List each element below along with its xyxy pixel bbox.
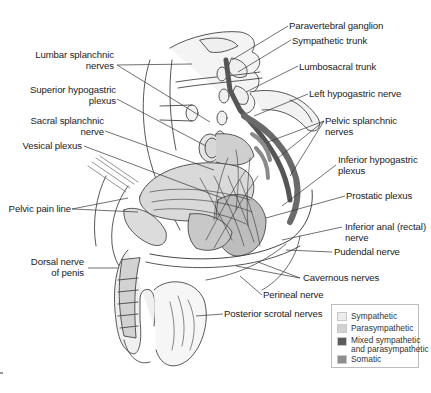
label-line: Superior hypogastric: [24, 85, 116, 96]
label-inferior-anal-rectal-nerve: Inferior anal (rectal) nerve: [345, 222, 426, 243]
label-cavernous-nerves: Cavernous nerves: [303, 273, 379, 284]
legend-label: Sympathetic: [351, 312, 397, 321]
label-lumbar-splanchnic-nerves: Lumbar splanchnic nerves: [34, 50, 114, 71]
label-line: Inferior hypogastric: [338, 155, 418, 166]
label-line: nerves: [34, 61, 114, 72]
swatch-mixed: [337, 337, 347, 346]
label-line: Pudendal nerve: [334, 247, 400, 258]
swatch-parasympathetic: [337, 324, 347, 333]
label-line: Sympathetic trunk: [292, 36, 367, 47]
legend-label: Somatic: [351, 355, 381, 364]
label-line: Posterior scrotal nerves: [224, 309, 322, 320]
label-inferior-hypogastric-plexus: Inferior hypogastric plexus: [338, 155, 418, 176]
label-sympathetic-trunk: Sympathetic trunk: [292, 36, 367, 47]
label-line: Prostatic plexus: [346, 191, 412, 202]
legend: Sympathetic Parasympathetic Mixed sympat…: [331, 304, 419, 368]
label-line: Lumbosacral trunk: [299, 62, 376, 73]
legend-label: Parasympathetic: [351, 324, 413, 333]
label-paravertebral-ganglion: Paravertebral ganglion: [289, 21, 383, 32]
label-line: Pelvic pain line: [4, 204, 71, 215]
label-prostatic-plexus: Prostatic plexus: [346, 191, 412, 202]
label-line: Dorsal nerve: [20, 257, 84, 268]
label-line: Perineal nerve: [263, 290, 323, 301]
label-line: plexus: [338, 166, 418, 177]
label-perineal-nerve: Perineal nerve: [263, 290, 323, 301]
label-left-hypogastric-nerve: Left hypogastric nerve: [309, 89, 401, 100]
label-posterior-scrotal-nerves: Posterior scrotal nerves: [224, 309, 322, 320]
label-line: nerve: [24, 127, 104, 138]
pelvic-innervation-diagram: Lumbar splanchnic nerves Superior hypoga…: [0, 0, 431, 393]
label-line: Sacral splanchnic: [24, 116, 104, 127]
swatch-somatic: [337, 355, 347, 364]
label-sacral-splanchnic-nerve: Sacral splanchnic nerve: [24, 116, 104, 137]
label-lumbosacral-trunk: Lumbosacral trunk: [299, 62, 376, 73]
label-line: Inferior anal (rectal): [345, 222, 426, 233]
label-line: plexus: [24, 96, 116, 107]
label-pudendal-nerve: Pudendal nerve: [334, 247, 400, 258]
label-vesical-plexus: Vesical plexus: [10, 141, 82, 152]
label-dorsal-nerve-of-penis: Dorsal nerve of penis: [20, 257, 84, 278]
legend-label-line2: and parasympathetic: [351, 344, 429, 354]
label-line: Lumbar splanchnic: [34, 50, 114, 61]
label-superior-hypogastric-plexus: Superior hypogastric plexus: [24, 85, 116, 106]
legend-label: Mixed sympathetic and parasympathetic: [351, 336, 429, 353]
label-pelvic-splanchnic-nerves: Pelvic splanchnic nerves: [325, 116, 397, 137]
label-line: of penis: [20, 268, 84, 279]
label-pelvic-pain-line: Pelvic pain line: [4, 204, 71, 215]
label-line: Left hypogastric nerve: [309, 89, 401, 100]
swatch-sympathetic: [337, 312, 347, 321]
label-line: Vesical plexus: [10, 141, 82, 152]
label-line: nerve: [345, 233, 426, 244]
label-line: Paravertebral ganglion: [289, 21, 383, 32]
label-line: Cavernous nerves: [303, 273, 379, 284]
label-line: nerves: [325, 127, 397, 138]
label-line: Pelvic splanchnic: [325, 116, 397, 127]
edge-mark: [0, 372, 3, 374]
